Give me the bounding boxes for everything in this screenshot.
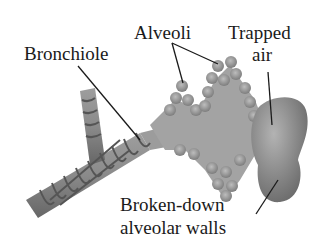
alveoli-label: Alveoli (134, 23, 191, 42)
alveoli-leader-left (172, 43, 183, 83)
trapped-air-sac (251, 97, 307, 202)
broken-walls-label-line2: alveolar walls (120, 218, 226, 237)
alveoli-cluster (150, 56, 262, 202)
trapped-air-label-line1: Trapped (228, 23, 291, 42)
bronchiole-label: Bronchiole (24, 44, 108, 63)
emphysema-diagram: Alveoli Trapped air Bronchiole Broken-do… (0, 0, 321, 246)
alveoli-leader-right (172, 43, 218, 64)
trapped-air-label-line2: air (252, 45, 272, 64)
broken-walls-label-line1: Broken-down (120, 195, 224, 214)
